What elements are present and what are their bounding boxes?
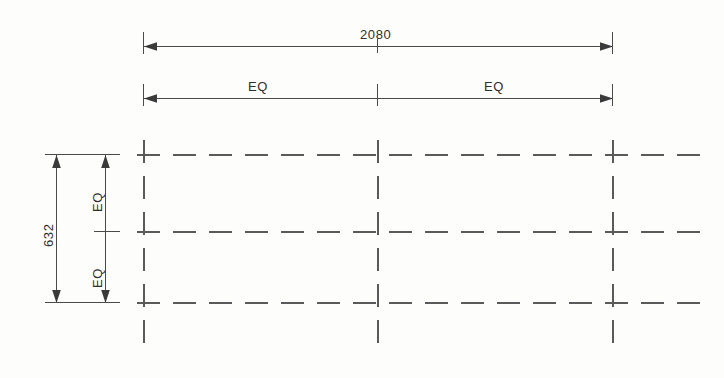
dimension-label-2080: 2080 <box>360 27 391 42</box>
arrowhead-left-2080 <box>144 40 158 53</box>
dimension-label-veq-lower: EQ <box>90 268 105 288</box>
grid-horizontal-line-2 <box>137 231 712 233</box>
arrowhead-right-2080 <box>599 40 613 53</box>
dimension-line-horizontal-eq <box>144 98 613 99</box>
grid-vertical-line-center <box>377 140 379 356</box>
grid-horizontal-line-3 <box>137 302 712 304</box>
dimension-line-overall-width <box>144 46 613 47</box>
arrowhead-top-632 <box>50 155 63 169</box>
dimension-label-632: 632 <box>41 224 56 248</box>
arrowhead-bottom-veq <box>99 289 112 303</box>
dimension-label-eq-left: EQ <box>248 79 268 94</box>
dimension-label-eq-right: EQ <box>484 79 504 94</box>
drawing-sheet: 2080 EQ EQ <box>0 0 724 378</box>
grid-vertical-line-left <box>143 140 145 356</box>
dimension-middle-tick-veq <box>99 231 113 232</box>
dimension-center-tick-eq <box>377 91 378 105</box>
dimension-label-veq-upper: EQ <box>90 192 105 212</box>
dimension-line-632 <box>56 155 57 303</box>
arrowhead-top-veq <box>99 155 112 169</box>
grid-vertical-line-right <box>612 140 614 356</box>
arrowhead-right-eq <box>599 92 613 105</box>
arrowhead-left-eq <box>144 92 158 105</box>
dimension-line-vertical-eq <box>105 155 106 303</box>
grid-horizontal-line-1 <box>137 154 712 156</box>
arrowhead-bottom-632 <box>50 289 63 303</box>
